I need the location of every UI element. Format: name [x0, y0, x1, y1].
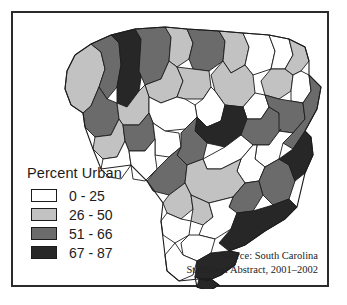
source-line-2: Statistical Abstract, 2001–2002: [186, 263, 318, 277]
legend-title: Percent Urban: [27, 165, 149, 181]
source-attribution: Source: South Carolina Statistical Abstr…: [186, 249, 318, 277]
legend-swatch-51-66: [31, 227, 57, 240]
figure-frame: Percent Urban 0 - 25 26 - 50 51 - 66 67 …: [11, 11, 329, 287]
legend-swatch-26-50: [31, 208, 57, 221]
legend-label-67-87: 67 - 87: [69, 245, 113, 261]
map-figure: Percent Urban 0 - 25 26 - 50 51 - 66 67 …: [0, 0, 347, 305]
legend-item-0[interactable]: 0 - 25: [21, 186, 149, 205]
map-legend: Percent Urban 0 - 25 26 - 50 51 - 66 67 …: [21, 165, 149, 262]
county-darlington[interactable]: [261, 69, 293, 99]
legend-item-3[interactable]: 67 - 87: [21, 243, 149, 262]
legend-item-1[interactable]: 26 - 50: [21, 205, 149, 224]
legend-label-26-50: 26 - 50: [69, 207, 113, 223]
source-line-1: Source: South Carolina: [186, 249, 318, 263]
legend-label-0-25: 0 - 25: [69, 188, 105, 204]
legend-swatch-0-25: [31, 189, 57, 202]
legend-label-51-66: 51 - 66: [69, 226, 113, 242]
legend-item-2[interactable]: 51 - 66: [21, 224, 149, 243]
legend-swatch-67-87: [31, 246, 57, 259]
